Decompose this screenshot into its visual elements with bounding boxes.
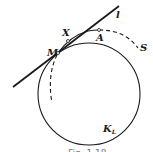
dashed-curve-lower — [50, 55, 57, 103]
geometry-diagram: l M X A S KL Fig. 1.18 — [0, 0, 153, 152]
point-x-marker — [67, 40, 70, 43]
label-circle-k: KL — [102, 123, 116, 135]
label-a: A — [95, 32, 104, 43]
label-line-l: l — [116, 9, 120, 20]
label-s: S — [140, 42, 147, 53]
circle-k — [38, 43, 140, 145]
figure-caption: Fig. 1.18 — [68, 148, 107, 152]
label-m: M — [46, 47, 59, 58]
line-l — [13, 6, 119, 87]
label-x: X — [61, 27, 71, 38]
figure-canvas: l M X A S KL Fig. 1.18 — [0, 0, 153, 152]
